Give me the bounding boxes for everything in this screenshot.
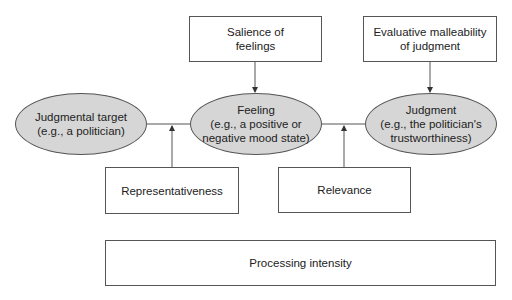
feeling-label: Feeling (e.g., a positive or negative mo… [202, 103, 309, 145]
salience-of-feelings-box: Salience of feelings [189, 16, 322, 62]
relevance-label: Relevance [317, 183, 371, 197]
feeling-ellipse: Feeling (e.g., a positive or negative mo… [190, 93, 322, 155]
judgmental-target-ellipse: Judgmental target (e.g., a politician) [15, 93, 147, 155]
relevance-box: Relevance [278, 167, 411, 213]
judgment-label: Judgment (e.g., the politician's trustwo… [380, 103, 481, 145]
representativeness-box: Representativeness [105, 167, 239, 214]
judgmental-target-label: Judgmental target (e.g., a politician) [35, 110, 127, 138]
processing-intensity-label: Processing intensity [249, 256, 351, 270]
processing-intensity-box: Processing intensity [105, 240, 496, 286]
judgment-ellipse: Judgment (e.g., the politician's trustwo… [365, 93, 497, 155]
evaluative-malleability-box: Evaluative malleability of judgment [363, 16, 497, 62]
representativeness-label: Representativeness [121, 184, 223, 198]
salience-of-feelings-label: Salience of feelings [227, 25, 284, 53]
evaluative-malleability-label: Evaluative malleability of judgment [373, 25, 486, 53]
